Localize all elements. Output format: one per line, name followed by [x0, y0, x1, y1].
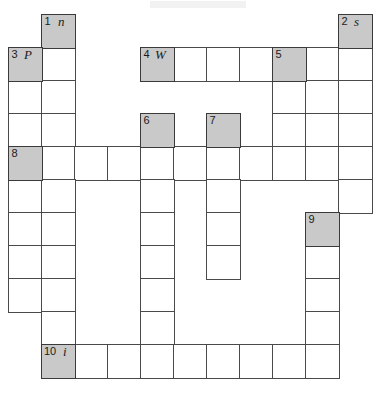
crossword-cell[interactable]: [338, 80, 373, 115]
crossword-cell[interactable]: [8, 113, 43, 148]
crossword-cell[interactable]: [206, 212, 241, 247]
crossword-puzzle: 1n2s3P4W5678910i: [0, 0, 389, 397]
crossword-grid: 1n2s3P4W5678910i: [0, 0, 389, 397]
crossword-cell[interactable]: [206, 179, 241, 214]
clue-number: 3: [12, 48, 18, 61]
crossword-cell[interactable]: [140, 245, 175, 280]
clue-letter: n: [58, 15, 65, 29]
crossword-cell[interactable]: [206, 47, 241, 82]
clue-letter: s: [354, 15, 359, 29]
crossword-clue-cell-8[interactable]: 8: [8, 146, 43, 181]
crossword-cell[interactable]: [8, 245, 43, 280]
crossword-cell[interactable]: [173, 146, 208, 181]
crossword-cell[interactable]: [41, 311, 76, 346]
crossword-clue-cell-4[interactable]: 4W: [140, 47, 175, 82]
crossword-cell[interactable]: [272, 146, 307, 181]
crossword-cell[interactable]: [206, 245, 241, 280]
crossword-cell[interactable]: [41, 179, 76, 214]
clue-number: 1: [45, 15, 51, 28]
crossword-cell[interactable]: [239, 344, 274, 379]
crossword-cell[interactable]: [206, 146, 241, 181]
crossword-cell[interactable]: [8, 179, 43, 214]
crossword-clue-cell-7[interactable]: 7: [206, 113, 241, 148]
crossword-cell[interactable]: [338, 179, 373, 214]
clue-number: 10: [44, 345, 56, 358]
crossword-clue-cell-3[interactable]: 3P: [8, 47, 43, 82]
crossword-cell[interactable]: [107, 146, 142, 181]
clue-number: 9: [309, 213, 315, 226]
clue-letter: P: [24, 48, 32, 62]
crossword-cell[interactable]: [305, 80, 340, 115]
crossword-cell[interactable]: [338, 113, 373, 148]
crossword-cell[interactable]: [173, 344, 208, 379]
crossword-clue-cell-9[interactable]: 9: [305, 212, 340, 247]
crossword-cell[interactable]: [272, 80, 307, 115]
crossword-cell[interactable]: [41, 113, 76, 148]
crossword-clue-cell-1[interactable]: 1n: [41, 14, 76, 49]
crossword-cell[interactable]: [140, 344, 175, 379]
crossword-cell[interactable]: [140, 146, 175, 181]
crossword-cell[interactable]: [41, 47, 76, 82]
crossword-cell[interactable]: [140, 278, 175, 313]
clue-number: 6: [144, 114, 150, 127]
crossword-cell[interactable]: [206, 344, 241, 379]
crossword-cell[interactable]: [305, 344, 340, 379]
crossword-cell[interactable]: [8, 80, 43, 115]
crossword-cell[interactable]: [272, 344, 307, 379]
crossword-clue-cell-2[interactable]: 2s: [338, 14, 373, 49]
crossword-cell[interactable]: [140, 212, 175, 247]
crossword-cell[interactable]: [74, 146, 109, 181]
crossword-cell[interactable]: [140, 179, 175, 214]
crossword-cell[interactable]: [305, 146, 340, 181]
crossword-cell[interactable]: [272, 113, 307, 148]
crossword-cell[interactable]: [41, 80, 76, 115]
clue-number: 2: [342, 15, 348, 28]
clue-letter: i: [63, 345, 67, 359]
crossword-cell[interactable]: [74, 344, 109, 379]
crossword-cell[interactable]: [305, 113, 340, 148]
crossword-cell[interactable]: [338, 47, 373, 82]
crossword-cell[interactable]: [41, 212, 76, 247]
crossword-cell[interactable]: [305, 245, 340, 280]
clue-number: 4: [144, 48, 150, 61]
crossword-clue-cell-5[interactable]: 5: [272, 47, 307, 82]
crossword-cell[interactable]: [239, 47, 274, 82]
clue-number: 7: [210, 114, 216, 127]
clue-number: 5: [276, 48, 282, 61]
crossword-cell[interactable]: [8, 212, 43, 247]
crossword-cell[interactable]: [305, 311, 340, 346]
crossword-cell[interactable]: [173, 47, 208, 82]
crossword-cell[interactable]: [41, 278, 76, 313]
crossword-clue-cell-6[interactable]: 6: [140, 113, 175, 148]
clue-number: 8: [12, 147, 18, 160]
crossword-cell[interactable]: [8, 278, 43, 313]
crossword-clue-cell-10[interactable]: 10i: [41, 344, 76, 379]
crossword-cell[interactable]: [41, 245, 76, 280]
crossword-cell[interactable]: [107, 344, 142, 379]
crossword-cell[interactable]: [140, 311, 175, 346]
crossword-cell[interactable]: [338, 146, 373, 181]
clue-letter: W: [155, 48, 166, 62]
crossword-cell[interactable]: [239, 146, 274, 181]
crossword-cell[interactable]: [41, 146, 76, 181]
crossword-cell[interactable]: [305, 278, 340, 313]
crossword-cell[interactable]: [305, 47, 340, 82]
